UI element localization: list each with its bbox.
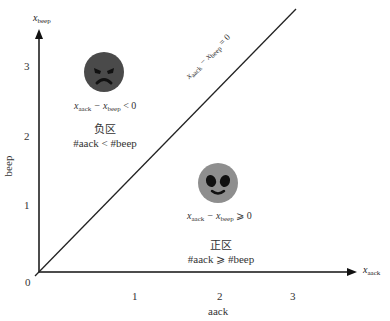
happy-alien-face-icon xyxy=(198,163,238,203)
angry-face-icon xyxy=(84,52,124,92)
x-tick-1: 1 xyxy=(132,290,138,302)
axes-canvas xyxy=(0,0,390,321)
y-axis-symbol: xbeep xyxy=(33,12,51,25)
pos-cond-var2: − x xyxy=(204,210,220,221)
positive-region-title: 正区 xyxy=(176,238,266,252)
neg-cond-sub1: aack xyxy=(78,105,91,113)
y-tick-2: 2 xyxy=(24,130,30,142)
y-tick-3: 3 xyxy=(24,60,30,72)
positive-region-relation: #aack ⩾ #beep xyxy=(176,252,266,266)
negative-region-relation: #aack < #beep xyxy=(62,136,148,150)
negative-condition: xaack − xbeep < 0 xyxy=(74,100,136,113)
pos-cond-sub2: beep xyxy=(220,215,233,223)
y-axis-arrow-icon xyxy=(35,29,43,39)
negative-region-label: 负区 #aack < #beep xyxy=(62,122,148,150)
neg-cond-var2: − x xyxy=(91,100,107,111)
pos-cond-sub1: aack xyxy=(191,215,204,223)
neg-cond-sub2: beep xyxy=(107,105,120,113)
x-axis-label: aack xyxy=(208,305,228,317)
y-tick-1: 1 xyxy=(24,199,30,211)
positive-region-label: 正区 #aack ⩾ #beep xyxy=(176,238,266,266)
pos-cond-rhs: ⩾ 0 xyxy=(234,210,252,221)
x-tick-3: 3 xyxy=(290,290,296,302)
x-tick-2: 2 xyxy=(217,290,223,302)
x-axis-symbol-sub: aack xyxy=(367,269,380,277)
x-axis-arrow-icon xyxy=(347,268,357,276)
angry-face-features xyxy=(84,52,124,92)
positive-condition: xaack − xbeep ⩾ 0 xyxy=(187,210,252,223)
y-axis-symbol-sub: beep xyxy=(37,17,50,25)
neg-cond-rhs: < 0 xyxy=(121,100,137,111)
negative-region-title: 负区 xyxy=(62,122,148,136)
y-axis-label: beep xyxy=(2,156,14,177)
happy-face-features xyxy=(198,163,238,203)
origin-label: 0 xyxy=(25,276,31,288)
x-axis-symbol: xaack xyxy=(363,264,380,277)
